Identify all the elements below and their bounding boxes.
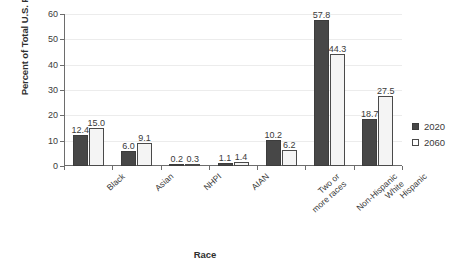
bar-group: 6.09.1 [121, 14, 152, 166]
bar-value-label: 15.0 [87, 118, 105, 128]
bar-value-label: 6.0 [122, 141, 135, 151]
y-tick-label: 40 [48, 60, 58, 70]
bar-value-label: 9.1 [138, 133, 151, 143]
bar: 1.1 [218, 163, 233, 166]
legend-label: 2060 [424, 137, 445, 148]
bar-group: 1.11.4 [218, 14, 249, 166]
x-category-label: Non-Hispanic White [355, 172, 406, 220]
legend-item-2020: 2020 [412, 118, 445, 134]
legend-label: 2020 [424, 121, 445, 132]
x-tick-mark [209, 166, 210, 170]
bar-value-label: 1.4 [235, 152, 248, 162]
x-category-label: Asian [154, 172, 176, 193]
bar-value-label: 44.3 [329, 44, 347, 54]
plot-area: 0102030405060 12.415.06.09.10.20.31.11.4… [64, 14, 402, 166]
y-tick-label: 10 [48, 136, 58, 146]
x-category-label: NHPI [202, 172, 223, 193]
bar-value-label: 0.3 [186, 154, 199, 164]
x-category-label: Two or more races [304, 172, 348, 215]
y-tick-label: 20 [48, 110, 58, 120]
bar-chart: Percent of Total U.S. Population 0102030… [0, 0, 471, 273]
x-tick-mark [402, 166, 403, 170]
y-tick-mark [60, 65, 64, 66]
bar-value-label: 10.2 [265, 130, 283, 140]
y-tick-mark [60, 115, 64, 116]
legend: 2020 2060 [412, 118, 445, 150]
filled-square-icon [412, 123, 419, 130]
bar-value-label: 6.2 [283, 140, 296, 150]
bar-value-label: 12.4 [71, 125, 89, 135]
bar: 44.3 [330, 54, 345, 166]
x-category-label: AIAN [250, 172, 271, 192]
y-tick-mark [60, 39, 64, 40]
bar: 12.4 [73, 135, 88, 166]
x-tick-mark [305, 166, 306, 170]
bar: 10.2 [266, 140, 281, 166]
bar: 57.8 [314, 20, 329, 166]
x-tick-mark [112, 166, 113, 170]
y-tick-label: 30 [48, 85, 58, 95]
y-tick-label: 60 [48, 9, 58, 19]
y-tick-label: 0 [53, 161, 58, 171]
bar: 1.4 [234, 162, 249, 166]
x-tick-mark [64, 166, 65, 170]
bar-group: 12.415.0 [73, 14, 104, 166]
x-tick-mark [161, 166, 162, 170]
bar: 18.7 [362, 119, 377, 166]
x-tick-mark [257, 166, 258, 170]
y-tick-label: 50 [48, 34, 58, 44]
hollow-square-icon [412, 139, 419, 146]
bar-value-label: 57.8 [313, 10, 331, 20]
bar-value-label: 1.1 [219, 153, 232, 163]
bar: 0.2 [169, 164, 184, 166]
bar-group: 18.727.5 [362, 14, 393, 166]
bar: 0.3 [185, 164, 200, 166]
bar-value-label: 18.7 [361, 109, 379, 119]
bar: 15.0 [89, 128, 104, 166]
bar-group: 57.844.3 [314, 14, 345, 166]
bar: 9.1 [137, 143, 152, 166]
bar-value-label: 0.2 [170, 154, 183, 164]
x-category-label: Black [105, 172, 127, 193]
x-axis-title: Race [0, 249, 410, 260]
bar-group: 10.26.2 [266, 14, 297, 166]
y-tick-mark [60, 14, 64, 15]
bar-group: 0.20.3 [169, 14, 200, 166]
y-tick-mark [60, 141, 64, 142]
bar: 6.0 [121, 151, 136, 166]
bar-value-label: 27.5 [377, 86, 395, 96]
y-tick-mark [60, 90, 64, 91]
x-tick-mark [354, 166, 355, 170]
bar: 6.2 [282, 150, 297, 166]
y-axis-title: Percent of Total U.S. Population [14, 0, 36, 105]
bar: 27.5 [378, 96, 393, 166]
legend-item-2060: 2060 [412, 134, 445, 150]
